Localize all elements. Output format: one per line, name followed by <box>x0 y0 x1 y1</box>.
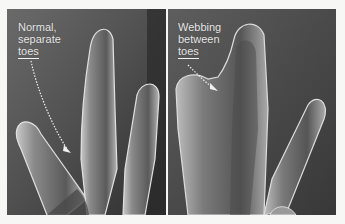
label-line-3: toes <box>178 45 199 59</box>
label-line-1: Webbing <box>178 21 221 33</box>
label-line-2: between <box>178 33 221 45</box>
normal-toes-label: Normal, separate toes <box>18 21 61 59</box>
webbing-label: Webbing between toes <box>178 21 221 59</box>
webbed-toes-photo: Webbing between toes <box>168 9 336 215</box>
label-line-2: separate <box>18 33 61 45</box>
label-line-3: toes <box>18 45 39 59</box>
normal-toes-photo: Normal, separate toes <box>7 9 166 215</box>
label-line-1: Normal, <box>18 21 61 33</box>
